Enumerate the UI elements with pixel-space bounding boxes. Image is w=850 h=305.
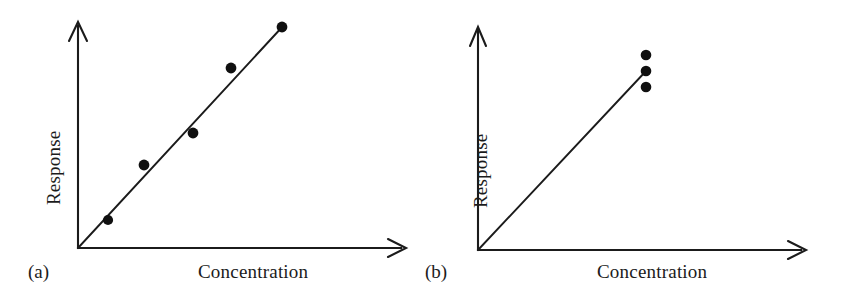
data-point <box>139 160 150 171</box>
data-point <box>641 66 652 77</box>
regression-line-b <box>478 71 646 250</box>
x-axis-label-b: Concentration <box>597 261 707 283</box>
data-point <box>188 128 199 139</box>
data-point <box>277 22 288 33</box>
x-axis-label-a: Concentration <box>198 261 308 283</box>
data-point <box>641 50 652 61</box>
data-point <box>641 82 652 93</box>
panel-a: Response Concentration (a) <box>0 0 425 305</box>
y-axis-label-b: Response <box>470 134 492 208</box>
panel-caption-a: (a) <box>28 261 49 283</box>
data-point <box>103 215 113 225</box>
y-axis-label-a: Response <box>43 131 65 205</box>
figure-container: Response Concentration (a) Response Conc… <box>0 0 850 305</box>
data-point <box>226 63 237 74</box>
regression-line-a <box>78 25 284 248</box>
panel-caption-b: (b) <box>425 261 447 283</box>
panel-b: Response Concentration (b) <box>425 0 850 305</box>
